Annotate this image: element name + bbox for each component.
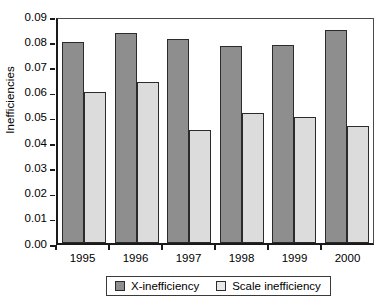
y-tick-mark: [50, 169, 55, 171]
bar: [189, 130, 211, 244]
bar-group: [216, 19, 269, 243]
y-tick-mark: [50, 144, 55, 146]
bar-group: [58, 19, 111, 243]
legend-item: X-inefficiency: [115, 280, 199, 292]
y-tick: 0.09: [0, 18, 56, 19]
y-tick-label: 0.07: [25, 61, 47, 73]
bar: [242, 113, 264, 243]
y-tick: 0.03: [0, 169, 56, 170]
x-tick-label: 1998: [215, 252, 268, 270]
y-tick: 0.04: [0, 144, 56, 145]
y-tick-label: 0.08: [25, 36, 47, 48]
bar: [62, 42, 84, 243]
bar: [115, 33, 137, 243]
x-tick-label: 1996: [109, 252, 162, 270]
y-tick-mark: [50, 68, 55, 70]
x-tick-label: 1999: [268, 252, 321, 270]
bar-group: [268, 19, 321, 243]
legend-label: Scale inefficiency: [232, 280, 321, 292]
bar: [325, 30, 347, 243]
y-tick-label: 0.03: [25, 162, 47, 174]
y-tick-label: 0.02: [25, 187, 47, 199]
bar: [347, 126, 369, 243]
bar: [167, 39, 189, 243]
legend-label: X-inefficiency: [131, 280, 199, 292]
chart-legend: X-inefficiencyScale inefficiency: [106, 276, 331, 296]
x-tick-label: 1995: [56, 252, 109, 270]
legend-swatch-icon: [115, 281, 125, 291]
y-tick-mark: [50, 195, 55, 197]
y-tick-mark: [50, 94, 55, 96]
y-tick: 0.01: [0, 220, 56, 221]
bar: [137, 82, 159, 243]
y-tick: 0.05: [0, 119, 56, 120]
y-tick-label: 0.04: [25, 137, 47, 149]
bar-group: [321, 19, 374, 243]
plot-area: [56, 18, 374, 245]
x-tick-label: 1997: [162, 252, 215, 270]
y-axis-ticks: 0.090.080.070.060.050.040.030.020.010.00: [0, 0, 56, 245]
bar: [272, 45, 294, 243]
y-tick-label: 0.09: [25, 11, 47, 23]
bar-groups: [58, 19, 373, 243]
x-tick-label: 2000: [321, 252, 374, 270]
y-tick: 0.07: [0, 68, 56, 69]
bar-group: [111, 19, 164, 243]
y-tick: 0.06: [0, 94, 56, 95]
bar-group: [163, 19, 216, 243]
legend-item: Scale inefficiency: [216, 280, 321, 292]
bar-chart-figure: Inefficiencies 0.090.080.070.060.050.040…: [0, 0, 390, 307]
bar: [84, 92, 106, 243]
y-tick: 0.08: [0, 43, 56, 44]
bar: [294, 117, 316, 243]
y-tick-mark: [50, 119, 55, 121]
y-tick-label: 0.06: [25, 86, 47, 98]
y-tick-mark: [50, 220, 55, 222]
y-tick: 0.00: [0, 245, 56, 246]
y-tick-label: 0.01: [25, 212, 47, 224]
y-tick: 0.02: [0, 195, 56, 196]
y-tick-mark: [50, 18, 55, 20]
x-axis-labels: 199519961997199819992000: [56, 252, 374, 270]
y-tick-label: 0.05: [25, 111, 47, 123]
bar: [220, 46, 242, 243]
y-tick-mark: [50, 43, 55, 45]
legend-swatch-icon: [216, 281, 226, 291]
y-tick-label: 0.00: [25, 238, 47, 250]
